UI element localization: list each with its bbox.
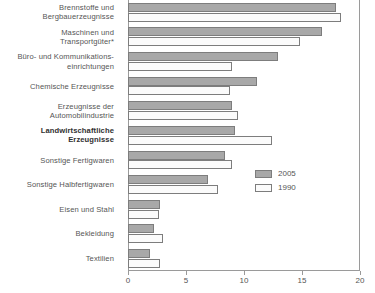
x-tick bbox=[302, 271, 303, 275]
bar-1990 bbox=[128, 160, 232, 169]
chart-row: Bekleidung bbox=[0, 222, 375, 247]
category-label: Sonstige Halbfertigwaren bbox=[0, 172, 120, 197]
bar-1990 bbox=[128, 62, 232, 71]
bar-2005 bbox=[128, 101, 232, 110]
bar-1990 bbox=[128, 259, 160, 268]
bar-2005 bbox=[128, 3, 336, 12]
bar-1990 bbox=[128, 210, 159, 219]
x-tick bbox=[186, 271, 187, 275]
bar-2005 bbox=[128, 27, 322, 36]
legend: 20051990 bbox=[255, 168, 325, 196]
bar-1990 bbox=[128, 86, 230, 95]
legend-label: 1990 bbox=[278, 184, 296, 192]
category-label: Textilien bbox=[0, 246, 120, 271]
bar-1990 bbox=[128, 234, 163, 243]
x-tick-label: 5 bbox=[184, 276, 188, 285]
chart-row: Eisen und Stahl bbox=[0, 197, 375, 222]
category-label: Erzeugnisse derAutomobilindustrie bbox=[0, 99, 120, 124]
bar-2005 bbox=[128, 224, 154, 233]
x-tick-label: 10 bbox=[240, 276, 249, 285]
legend-item[interactable]: 2005 bbox=[255, 168, 325, 179]
chart-row: LandwirtschaftlicheErzeugnisse bbox=[0, 123, 375, 148]
bar-2005 bbox=[128, 77, 257, 86]
chart-row: Maschinen undTransportgüter* bbox=[0, 25, 375, 50]
x-tick-label: 15 bbox=[298, 276, 307, 285]
bar-2005 bbox=[128, 175, 208, 184]
legend-swatch-icon bbox=[255, 184, 272, 192]
bar-2005 bbox=[128, 249, 150, 258]
category-label: Eisen und Stahl bbox=[0, 197, 120, 222]
x-tick bbox=[128, 271, 129, 275]
category-label: Brennstoffe undBergbauerzeugnisse bbox=[0, 0, 120, 25]
category-label: Maschinen undTransportgüter* bbox=[0, 25, 120, 50]
legend-swatch-icon bbox=[255, 170, 272, 178]
chart-row: Erzeugnisse derAutomobilindustrie bbox=[0, 99, 375, 124]
bar-1990 bbox=[128, 185, 218, 194]
bar-1990 bbox=[128, 13, 341, 22]
chart-row: Büro- und Kommunikations-einrichtungen bbox=[0, 49, 375, 74]
category-label: Bekleidung bbox=[0, 222, 120, 247]
x-tick bbox=[244, 271, 245, 275]
category-label: LandwirtschaftlicheErzeugnisse bbox=[0, 123, 120, 148]
bar-2005 bbox=[128, 200, 160, 209]
x-tick-label: 0 bbox=[126, 276, 130, 285]
bar-1990 bbox=[128, 136, 272, 145]
bar-2005 bbox=[128, 126, 235, 135]
bar-1990 bbox=[128, 37, 300, 46]
chart-row: Brennstoffe undBergbauerzeugnisse bbox=[0, 0, 375, 25]
chart-row: Chemische Erzeugnisse bbox=[0, 74, 375, 99]
legend-item[interactable]: 1990 bbox=[255, 182, 325, 193]
bar-chart: Brennstoffe undBergbauerzeugnisseMaschin… bbox=[0, 0, 375, 293]
category-label: Büro- und Kommunikations-einrichtungen bbox=[0, 49, 120, 74]
category-label: Sonstige Fertigwaren bbox=[0, 148, 120, 173]
bar-2005 bbox=[128, 151, 225, 160]
x-axis: 05101520 bbox=[128, 271, 361, 293]
legend-label: 2005 bbox=[278, 170, 296, 178]
chart-rows: Brennstoffe undBergbauerzeugnisseMaschin… bbox=[0, 0, 375, 271]
chart-row: Textilien bbox=[0, 246, 375, 271]
bar-1990 bbox=[128, 111, 238, 120]
bar-2005 bbox=[128, 52, 278, 61]
x-tick-label: 20 bbox=[356, 276, 365, 285]
x-tick bbox=[360, 271, 361, 275]
category-label: Chemische Erzeugnisse bbox=[0, 74, 120, 99]
